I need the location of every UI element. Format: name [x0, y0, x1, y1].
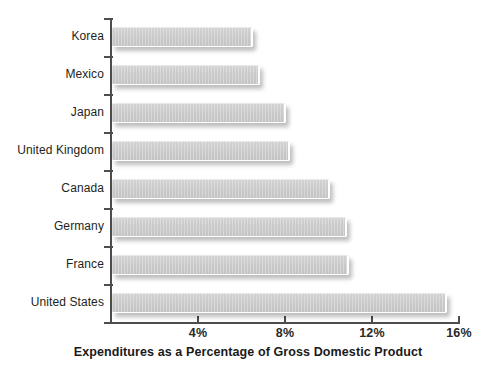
- y-axis-tick: [104, 94, 113, 96]
- bar-fill: [112, 255, 349, 275]
- y-axis-label-germany: Germany: [54, 219, 104, 233]
- y-axis-tick: [104, 56, 113, 58]
- x-axis-tick: [371, 316, 373, 324]
- x-axis-tick: [458, 316, 460, 324]
- bar-korea: [112, 27, 253, 47]
- y-axis-tick: [104, 322, 113, 324]
- bar-mexico: [112, 65, 260, 85]
- bar-fill: [112, 65, 260, 85]
- y-axis-tick: [104, 132, 113, 134]
- bar-canada: [112, 179, 330, 199]
- y-axis-tick: [104, 18, 113, 20]
- y-axis-label-japan: Japan: [71, 105, 104, 119]
- bar-united-kingdom: [112, 141, 290, 161]
- chart-axis-title: Expenditures as a Percentage of Gross Do…: [0, 345, 496, 359]
- bar-france: [112, 255, 349, 275]
- x-axis-tick-label-4pct: 4%: [189, 326, 207, 340]
- y-axis-label-france: France: [66, 257, 104, 271]
- y-axis-tick: [104, 284, 113, 286]
- x-axis-tick-label-12pct: 12%: [359, 326, 385, 340]
- y-axis-tick: [104, 208, 113, 210]
- bar-fill: [112, 141, 290, 161]
- y-axis-tick: [104, 246, 113, 248]
- bar-fill: [112, 293, 447, 313]
- x-axis-tick: [284, 316, 286, 324]
- bar-fill: [112, 217, 347, 237]
- y-axis-label-korea: Korea: [71, 29, 104, 43]
- y-axis-label-united-states: United States: [31, 295, 104, 309]
- bar-germany: [112, 217, 347, 237]
- x-axis-tick-label-8pct: 8%: [276, 326, 294, 340]
- y-axis-tick: [104, 170, 113, 172]
- bar-fill: [112, 103, 286, 123]
- x-axis-tick: [197, 316, 199, 324]
- bar-japan: [112, 103, 286, 123]
- bar-fill: [112, 179, 330, 199]
- bar-united-states: [112, 293, 447, 313]
- x-axis-tick-label-16pct: 16%: [446, 326, 472, 340]
- y-axis-label-mexico: Mexico: [65, 67, 104, 81]
- y-axis-label-united-kingdom: United Kingdom: [17, 143, 104, 157]
- y-axis-label-canada: Canada: [61, 181, 104, 195]
- bar-fill: [112, 27, 253, 47]
- bar-chart: 4%8%12%16% KoreaMexicoJapanUnited Kingdo…: [0, 0, 496, 373]
